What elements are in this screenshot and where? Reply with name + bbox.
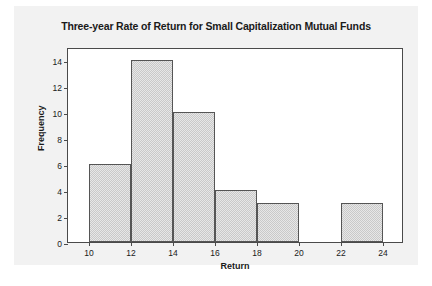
- y-tick-mark: [64, 140, 68, 141]
- x-axis-title: Return: [67, 261, 403, 271]
- y-tick-label: 0: [57, 239, 62, 249]
- y-tick-mark: [64, 62, 68, 63]
- x-tick-mark: [299, 242, 300, 246]
- x-tick-mark: [341, 242, 342, 246]
- histogram-bar: [173, 112, 215, 242]
- x-tick-label: 14: [168, 248, 177, 258]
- x-tick-label: 20: [294, 248, 303, 258]
- chart-title: Three-year Rate of Return for Small Capi…: [14, 20, 418, 32]
- x-tick-mark: [257, 242, 258, 246]
- y-tick-label: 10: [53, 109, 62, 119]
- y-tick-mark: [64, 88, 68, 89]
- bars-layer: [68, 49, 402, 242]
- histogram-bar: [341, 203, 383, 242]
- x-tick-mark: [215, 242, 216, 246]
- histogram-bar: [131, 60, 173, 242]
- x-tick-mark: [173, 242, 174, 246]
- y-tick-label: 4: [57, 187, 62, 197]
- x-tick-label: 18: [252, 248, 261, 258]
- x-tick-label: 24: [378, 248, 387, 258]
- x-tick-label: 12: [126, 248, 135, 258]
- x-tick-label: 22: [336, 248, 345, 258]
- y-tick-label: 14: [53, 57, 62, 67]
- x-tick-mark: [131, 242, 132, 246]
- y-tick-label: 8: [57, 135, 62, 145]
- histogram-bar: [215, 190, 257, 242]
- y-tick-label: 12: [53, 83, 62, 93]
- y-tick-label: 2: [57, 213, 62, 223]
- y-tick-mark: [64, 114, 68, 115]
- histogram-bar: [257, 203, 299, 242]
- y-tick-mark: [64, 218, 68, 219]
- histogram-bar: [89, 164, 131, 242]
- x-tick-label: 16: [210, 248, 219, 258]
- y-axis-title: Frequency: [36, 105, 46, 151]
- y-tick-mark: [64, 192, 68, 193]
- y-tick-mark: [64, 166, 68, 167]
- y-tick-label: 6: [57, 161, 62, 171]
- figure-panel: Three-year Rate of Return for Small Capi…: [14, 6, 418, 265]
- x-tick-mark: [383, 242, 384, 246]
- x-tick-mark: [89, 242, 90, 246]
- plot-area: 02468101214 1012141618202224: [67, 48, 403, 243]
- x-tick-label: 10: [84, 248, 93, 258]
- y-tick-mark: [64, 244, 68, 245]
